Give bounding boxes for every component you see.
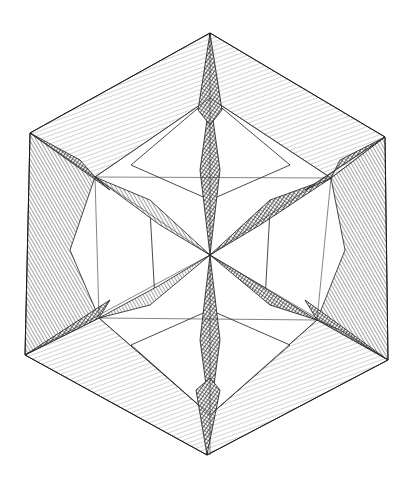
- polyhedron-engraving: [0, 0, 416, 487]
- polyhedron-figure: [25, 33, 388, 455]
